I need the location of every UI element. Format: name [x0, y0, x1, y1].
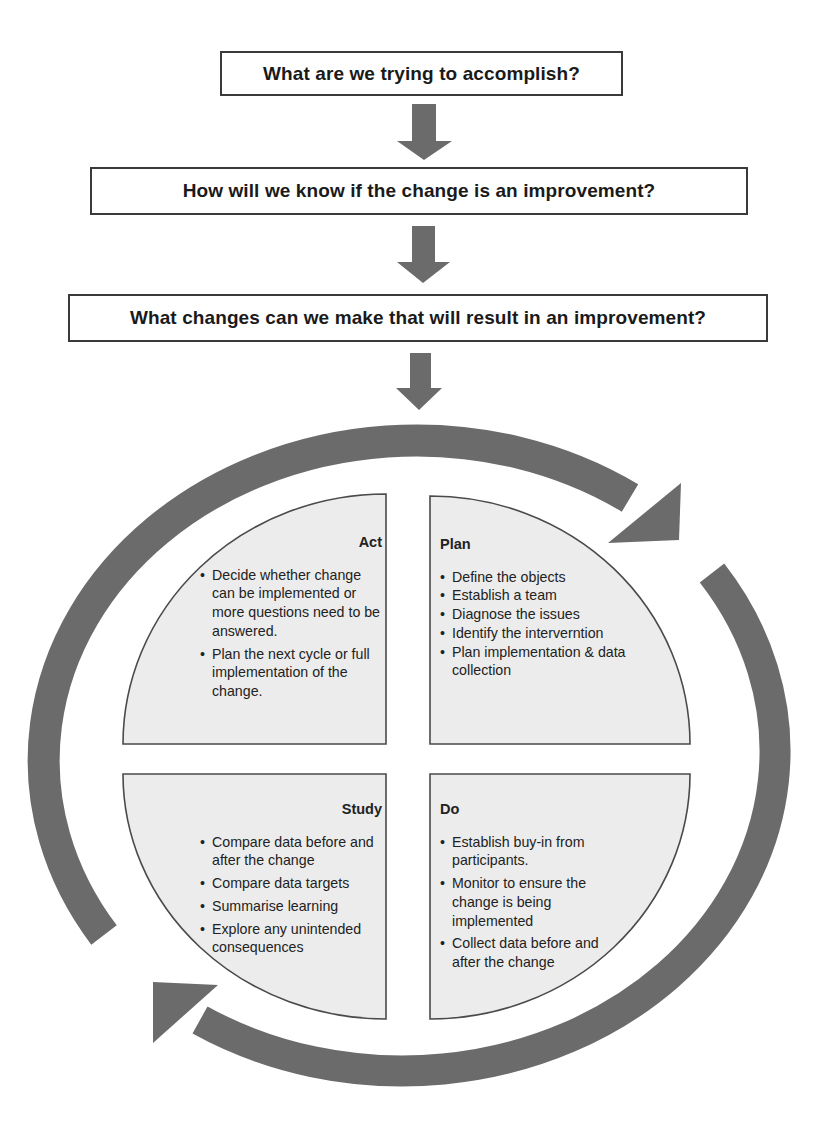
- question-box-measure: How will we know if the change is an imp…: [90, 167, 748, 215]
- quadrant-do: Do Establish buy-in from participants. M…: [440, 800, 610, 976]
- plan-item: Establish a team: [440, 586, 660, 605]
- plan-item: Plan implementation & data collection: [440, 643, 660, 680]
- do-item: Collect data before and after the change: [440, 934, 610, 971]
- quadrant-study: Study Compare data before and after the …: [200, 800, 382, 961]
- question-box-aim: What are we trying to accomplish?: [220, 51, 623, 96]
- study-item: Compare data targets: [200, 874, 382, 893]
- study-item: Summarise learning: [200, 897, 382, 916]
- question-box-change: What changes can we make that will resul…: [68, 294, 768, 342]
- down-arrow-2: [397, 226, 450, 283]
- down-arrow-3: [396, 353, 442, 410]
- do-item: Establish buy-in from participants.: [440, 833, 610, 870]
- quadrant-act-title: Act: [200, 533, 382, 552]
- quadrant-study-list: Compare data before and after the change…: [200, 833, 382, 957]
- plan-item: Diagnose the issues: [440, 605, 660, 624]
- do-item: Monitor to ensure the change is being im…: [440, 874, 610, 930]
- question-change-text: What changes can we make that will resul…: [130, 307, 706, 329]
- down-arrow-1: [397, 104, 452, 160]
- quadrant-plan-title: Plan: [440, 535, 660, 554]
- quadrant-study-title: Study: [200, 800, 382, 819]
- quadrant-act-list: Decide whether change can be implemented…: [200, 566, 382, 701]
- plan-item: Identify the interverntion: [440, 624, 660, 643]
- act-item: Plan the next cycle or full implementati…: [200, 645, 382, 701]
- question-measure-text: How will we know if the change is an imp…: [183, 180, 656, 202]
- quadrant-do-title: Do: [440, 800, 610, 819]
- act-item: Decide whether change can be implemented…: [200, 566, 382, 641]
- study-item: Explore any unintended consequences: [200, 920, 382, 957]
- quadrant-do-list: Establish buy-in from participants. Moni…: [440, 833, 610, 972]
- quadrant-plan: Plan Define the objects Establish a team…: [440, 535, 660, 680]
- study-item: Compare data before and after the change: [200, 833, 382, 870]
- question-aim-text: What are we trying to accomplish?: [263, 63, 580, 85]
- quadrant-plan-list: Define the objects Establish a team Diag…: [440, 568, 660, 680]
- quadrant-act: Act Decide whether change can be impleme…: [200, 533, 382, 705]
- plan-item: Define the objects: [440, 568, 660, 587]
